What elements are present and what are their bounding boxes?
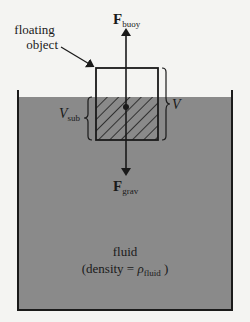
center-of-mass-dot bbox=[123, 104, 129, 110]
object-pointer-arrow bbox=[61, 47, 91, 65]
fluid-label: fluid bbox=[113, 244, 138, 259]
submerged-volume bbox=[96, 97, 158, 140]
floating-object-label: floating object bbox=[14, 22, 58, 52]
buoyant-force-label: Fbuoy bbox=[113, 11, 141, 29]
buoyancy-diagram: V Vsub Fbuoy Fgrav floating object fluid… bbox=[0, 0, 250, 322]
floating-object-above bbox=[96, 68, 158, 97]
volume-label: V bbox=[172, 97, 182, 112]
